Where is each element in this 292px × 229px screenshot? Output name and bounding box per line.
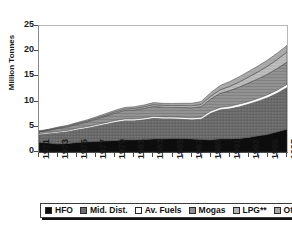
x-tick-mark xyxy=(95,153,96,157)
y-tick-label: 10 xyxy=(8,96,34,105)
legend-item: Mid. Dist. xyxy=(80,206,128,215)
x-tick-mark xyxy=(276,153,277,157)
area-series-group xyxy=(39,26,287,152)
x-tick-mark xyxy=(162,153,163,157)
y-tick-label: 25 xyxy=(8,20,34,29)
x-tick-label: 1985 xyxy=(176,139,185,159)
legend-item: Av. Fuels xyxy=(135,206,182,215)
x-tick-label: 1981 xyxy=(137,139,146,159)
x-tick-label: 1993 xyxy=(252,139,261,159)
x-tick-mark xyxy=(219,153,220,157)
x-tick-mark xyxy=(48,153,49,157)
legend-item: Other xyxy=(274,206,292,215)
y-tick-label: 20 xyxy=(8,45,34,54)
legend-swatch-icon xyxy=(189,207,196,214)
x-tick-mark xyxy=(133,153,134,157)
y-tick-label: 5 xyxy=(8,121,34,130)
x-tick-label: 1979 xyxy=(118,139,127,159)
chart-legend: HFOMid. Dist.Av. FuelsMogasLPG**Other xyxy=(40,203,292,218)
x-tick-mark xyxy=(191,153,192,157)
x-tick-mark xyxy=(257,153,258,157)
x-tick-mark xyxy=(152,153,153,157)
legend-item: Mogas xyxy=(189,206,226,215)
x-tick-mark xyxy=(114,153,115,157)
x-tick-mark xyxy=(229,153,230,157)
stacked-area-chart: Million Tonnes 0510152025 xyxy=(0,0,292,229)
x-tick-mark xyxy=(181,153,182,157)
legend-swatch-icon xyxy=(233,207,240,214)
legend-item: LPG** xyxy=(233,206,267,215)
plot-area xyxy=(38,25,288,153)
x-tick-mark xyxy=(67,153,68,157)
y-tick-label: 0 xyxy=(8,146,34,155)
x-tick-mark xyxy=(38,153,39,157)
x-tick-label: 1989 xyxy=(214,139,223,159)
legend-label: Other xyxy=(284,206,292,215)
x-tick-mark xyxy=(248,153,249,157)
x-tick-mark xyxy=(286,153,287,157)
x-tick-label: 1991 xyxy=(233,139,242,159)
x-tick-mark xyxy=(238,153,239,157)
legend-swatch-icon xyxy=(135,207,142,214)
x-tick-label: 1997 xyxy=(290,139,292,159)
x-tick-label: 1971 xyxy=(42,139,51,159)
x-tick-label: 1973 xyxy=(61,139,70,159)
x-tick-mark xyxy=(105,153,106,157)
legend-swatch-icon xyxy=(274,207,281,214)
x-tick-mark xyxy=(200,153,201,157)
legend-label: Av. Fuels xyxy=(145,206,182,215)
x-tick-label: 1977 xyxy=(99,139,108,159)
legend-swatch-icon xyxy=(45,207,52,214)
legend-label: LPG** xyxy=(243,206,267,215)
x-tick-label: 1975 xyxy=(80,139,89,159)
legend-swatch-icon xyxy=(80,207,87,214)
x-tick-mark xyxy=(57,153,58,157)
legend-label: HFO xyxy=(55,206,73,215)
x-tick-label: 1995 xyxy=(271,139,280,159)
x-tick-mark xyxy=(143,153,144,157)
x-tick-label: 1987 xyxy=(195,139,204,159)
x-tick-mark xyxy=(172,153,173,157)
x-tick-mark xyxy=(86,153,87,157)
x-tick-mark xyxy=(124,153,125,157)
x-tick-mark xyxy=(76,153,77,157)
legend-item: HFO xyxy=(45,206,73,215)
legend-label: Mogas xyxy=(199,206,226,215)
y-tick-label: 15 xyxy=(8,70,34,79)
legend-label: Mid. Dist. xyxy=(90,206,128,215)
x-tick-mark xyxy=(210,153,211,157)
x-tick-label: 1983 xyxy=(156,139,165,159)
x-tick-mark xyxy=(267,153,268,157)
